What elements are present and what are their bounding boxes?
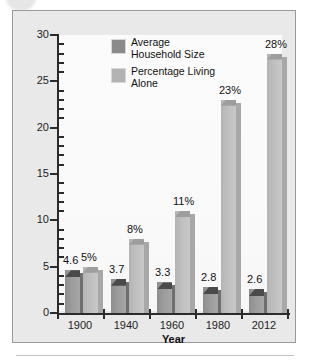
legend-item-percentage-living-alone: Percentage Living Alone [111,66,215,89]
y-axis-minor-tick [59,71,64,73]
y-axis-tick-label: 10 [25,214,49,225]
bar-value-label: 23% [219,84,241,96]
y-axis-labels: 302520151050 [21,11,49,344]
y-axis-major-tick [50,219,59,221]
y-axis-minor-tick [59,90,64,92]
y-axis-tick-label: 30 [25,29,49,40]
chart-page: 302520151050 19001940196019802012 Year 4… [0,0,311,363]
bar-side-face [144,242,149,313]
y-axis-minor-tick [59,62,64,64]
y-axis-major-tick [50,34,59,36]
y-axis-minor-tick [59,154,64,156]
bar-front-face [83,267,98,313]
y-axis-minor-tick [59,303,64,305]
bar-side-face [282,57,287,313]
bar-front-face [221,100,236,313]
bar-average-household-size [249,289,264,313]
bar-side-face [98,270,103,313]
bar-value-label: 5% [81,251,97,263]
bar-average-household-size [203,287,218,313]
x-axis-tick-label: 1900 [57,319,103,331]
legend-swatch-light [111,68,126,83]
bar-value-label: 8% [127,223,143,235]
legend-label: Percentage Living Alone [131,66,215,89]
bar-front-face [267,54,282,313]
x-axis-tick-label: 1960 [149,319,195,331]
bar-front-face [175,211,190,313]
x-axis-line [57,313,290,315]
x-axis-title: Year [57,333,290,345]
bar-percentage-living-alone [83,267,98,313]
y-axis-major-tick [50,127,59,129]
bar-value-label: 3.7 [109,263,124,275]
bar-value-label: 28% [265,38,287,50]
bar-average-household-size [65,270,80,313]
bar-percentage-living-alone [267,54,282,313]
bar-average-household-size [157,282,172,313]
y-axis-minor-tick [59,164,64,166]
bar-value-label: 2.6 [247,273,262,285]
footer-divider [16,355,294,356]
bar-percentage-living-alone [221,100,236,313]
bar-percentage-living-alone [175,211,190,313]
y-axis-major-tick [50,80,59,82]
y-axis-minor-tick [59,229,64,231]
y-axis-minor-tick [59,293,64,295]
y-axis-minor-tick [59,192,64,194]
y-axis-tick-label: 0 [25,307,49,318]
y-axis-minor-tick [59,201,64,203]
y-axis-tick-label: 5 [25,261,49,272]
y-axis-minor-tick [59,238,64,240]
bar-average-household-size [111,279,126,313]
y-axis-minor-tick [59,284,64,286]
bar-front-face [129,239,144,313]
y-axis-major-tick [50,266,59,268]
x-axis-tick [241,309,243,319]
bar-side-face [236,103,241,313]
y-axis-tick-label: 20 [25,122,49,133]
bar-value-label: 4.6 [63,254,78,266]
bar-value-label: 3.3 [155,266,170,278]
bar-side-face [190,214,195,313]
y-axis-tick-label: 25 [25,75,49,86]
bar-percentage-living-alone [129,239,144,313]
x-axis-tick [103,309,105,319]
x-axis-tick [287,309,289,319]
y-axis-minor-tick [59,145,64,147]
y-axis-minor-tick [59,43,64,45]
y-axis-minor-tick [59,117,64,119]
x-axis-tick [195,309,197,319]
y-axis-minor-tick [59,108,64,110]
x-axis-tick [149,309,151,319]
y-axis-minor-tick [59,136,64,138]
legend-swatch-dark [111,39,126,54]
legend-item-average-household-size: Average Household Size [111,37,215,60]
y-axis-major-tick [50,173,59,175]
chart-frame: 302520151050 19001940196019802012 Year 4… [12,10,296,343]
y-axis-tick-label: 15 [25,168,49,179]
x-axis-tick-label: 1940 [103,319,149,331]
y-axis-minor-tick [59,210,64,212]
chart-legend: Average Household Size Percentage Living… [111,37,215,95]
y-axis-line [57,35,59,315]
bar-value-label: 11% [173,195,194,207]
x-axis-tick-label: 1980 [195,319,241,331]
y-axis-minor-tick [59,99,64,101]
legend-label: Average Household Size [131,37,215,60]
y-axis-minor-tick [59,247,64,249]
y-axis-minor-tick [59,275,64,277]
bar-value-label: 2.8 [201,271,216,283]
y-axis-minor-tick [59,53,64,55]
y-axis-minor-tick [59,182,64,184]
x-axis-tick-label: 2012 [241,319,287,331]
x-axis-tick [57,309,59,319]
